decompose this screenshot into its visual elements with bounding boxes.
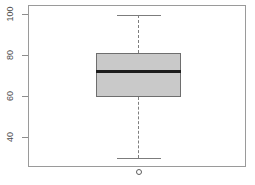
upper-whisker-cap [117, 15, 161, 16]
y-axis-tick-label-text: 100 [6, 6, 15, 21]
outlier-point [136, 169, 142, 175]
box-iqr-rect [96, 53, 181, 97]
median-line [96, 70, 181, 73]
y-axis-tick-label-text: 80 [6, 50, 15, 60]
boxplot-figure: 100 80 60 40 [0, 0, 255, 185]
y-axis-tick-label-text: 40 [6, 132, 15, 142]
lower-whisker-cap [117, 158, 161, 159]
upper-whisker-line [138, 15, 139, 53]
lower-whisker-line [138, 97, 139, 158]
y-axis-tick-label-text: 60 [6, 91, 15, 101]
